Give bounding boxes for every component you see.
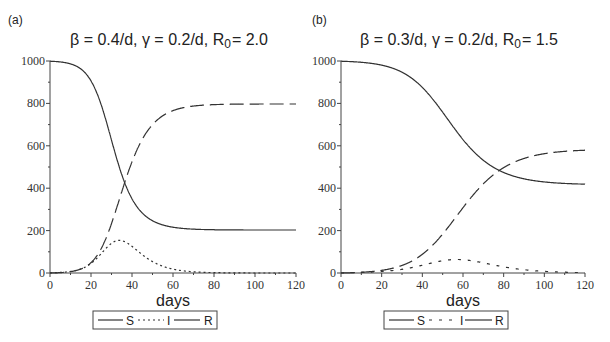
y-tick-label: 200: [27, 224, 45, 238]
curve-i: [341, 260, 585, 273]
y-tick-label: 200: [318, 224, 336, 238]
legend-s-label: S: [126, 314, 134, 328]
x-tick-label: 60: [167, 278, 179, 292]
y-tick-label: 400: [27, 181, 45, 195]
y-tick-label: 1000: [21, 54, 45, 68]
panel-a-axes: 02040608010012002004006008001000: [21, 54, 305, 292]
title-r-sub: 0: [224, 37, 231, 51]
panel-a-xlabel: days: [156, 292, 190, 309]
x-tick-label: 20: [376, 278, 388, 292]
curve-r: [50, 104, 296, 273]
title-beta: β = 0.3/d,: [360, 31, 427, 48]
x-tick-label: 20: [85, 278, 97, 292]
y-tick-label: 600: [27, 139, 45, 153]
x-tick-label: 100: [246, 278, 264, 292]
legend-i-label: I: [167, 314, 170, 328]
x-tick-label: 40: [126, 278, 138, 292]
title-r-val: = 1.5: [522, 31, 558, 48]
curve-s: [50, 61, 296, 230]
panel-b-xlabel: days: [446, 292, 480, 309]
x-tick-label: 0: [338, 278, 344, 292]
title-r: R: [213, 31, 225, 48]
title-r-sub: 0: [514, 37, 521, 51]
x-tick-label: 120: [576, 278, 594, 292]
curve-r: [341, 150, 585, 273]
panel-b: (b) β = 0.3/d, γ = 0.2/d, R0= 1.5 020406…: [312, 13, 594, 329]
curve-s: [341, 61, 585, 184]
panel-b-curves: [341, 61, 585, 273]
legend-r-label: R: [495, 314, 504, 328]
y-tick-label: 400: [318, 181, 336, 195]
x-tick-label: 0: [47, 278, 53, 292]
panel-b-title: β = 0.3/d, γ = 0.2/d, R0= 1.5: [360, 31, 558, 51]
x-tick-label: 60: [457, 278, 469, 292]
legend-i-label: I: [460, 314, 463, 328]
panel-a-curves: [50, 61, 296, 273]
x-tick-label: 80: [498, 278, 510, 292]
title-gamma: γ = 0.2/d,: [142, 31, 208, 48]
legend-s-label: S: [417, 314, 425, 328]
x-tick-label: 80: [208, 278, 220, 292]
x-tick-label: 120: [287, 278, 305, 292]
panel-b-label: (b): [312, 13, 327, 27]
y-tick-label: 800: [318, 96, 336, 110]
y-tick-label: 600: [318, 139, 336, 153]
panel-a-title: β = 0.4/d, γ = 0.2/d, R0= 2.0: [70, 31, 268, 51]
y-tick-label: 800: [27, 96, 45, 110]
title-r: R: [503, 31, 515, 48]
panel-b-axes: 02040608010012002004006008001000: [312, 54, 594, 292]
title-gamma: γ = 0.2/d,: [432, 31, 498, 48]
panel-a: (a) β = 0.4/d, γ = 0.2/d, R0= 2.0 020406…: [8, 13, 305, 329]
panel-b-legend: S I R: [384, 311, 508, 329]
x-tick-label: 40: [416, 278, 428, 292]
y-tick-label: 1000: [312, 54, 336, 68]
curve-i: [50, 240, 296, 273]
x-tick-label: 100: [535, 278, 553, 292]
sir-model-figure: (a) β = 0.4/d, γ = 0.2/d, R0= 2.0 020406…: [0, 0, 610, 342]
panel-a-legend: S I R: [93, 311, 217, 329]
title-beta: β = 0.4/d,: [70, 31, 137, 48]
title-r-val: = 2.0: [232, 31, 268, 48]
y-tick-label: 0: [330, 266, 336, 280]
y-tick-label: 0: [39, 266, 45, 280]
legend-r-label: R: [204, 314, 213, 328]
panel-a-label: (a): [8, 13, 23, 27]
